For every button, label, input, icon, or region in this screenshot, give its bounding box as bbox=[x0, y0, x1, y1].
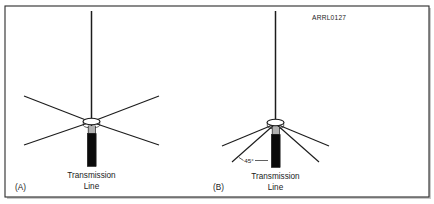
panel-a-coax-cable bbox=[88, 134, 96, 167]
panel-a-hub-ring bbox=[83, 118, 100, 124]
panel-a-caption-line1: Transmission bbox=[67, 171, 116, 180]
figure-credit-label: ARRL0127 bbox=[312, 14, 346, 21]
panel-a-label: (A) bbox=[15, 183, 26, 192]
panel-b-label: (B) bbox=[213, 183, 224, 192]
panel-b-caption-line2: Line bbox=[268, 183, 284, 192]
antenna-figure: Transmission Line (A) bbox=[0, 0, 434, 204]
panel-b-coax-cable bbox=[272, 135, 280, 168]
figure-canvas: Transmission Line (A) bbox=[0, 0, 434, 204]
panel-a-caption-line2: Line bbox=[84, 182, 100, 191]
panel-b-hub-ring bbox=[267, 119, 284, 125]
figure-frame bbox=[5, 6, 429, 197]
panel-b-caption-line1: Transmission bbox=[251, 172, 300, 181]
panel-b-angle-label: 45° bbox=[244, 157, 254, 164]
